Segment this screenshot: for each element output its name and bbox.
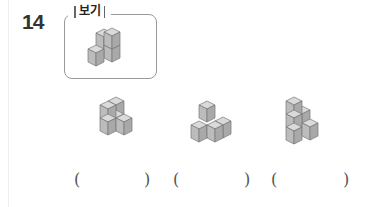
answer-2-blank[interactable]	[180, 170, 244, 188]
answer-1-blank[interactable]	[80, 170, 144, 188]
answer-3-blank[interactable]	[278, 170, 342, 188]
option-figure-3	[286, 97, 318, 144]
answer-3-close-paren: )	[343, 170, 349, 189]
answer-3-open-paren: (	[271, 170, 277, 189]
option-figure-1	[100, 97, 132, 135]
answer-1-close-paren: )	[144, 170, 150, 189]
answer-2-open-paren: (	[173, 170, 179, 189]
answer-2-close-paren: )	[244, 170, 250, 189]
example-figure	[88, 28, 120, 66]
option-figure-2	[191, 101, 231, 142]
